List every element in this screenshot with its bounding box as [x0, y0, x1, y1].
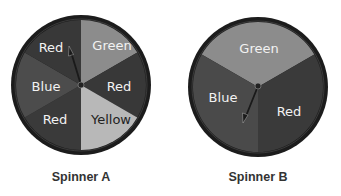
- sector-label: Blue: [32, 79, 61, 94]
- spinner-a: Green Red Yellow Red Blue Red: [11, 15, 151, 155]
- sector-label: Yellow: [90, 112, 131, 127]
- spinners-svg: Green Red Yellow Red Blue Red: [0, 0, 341, 196]
- sector-label: Red: [39, 40, 64, 55]
- sector-label: Red: [277, 104, 302, 119]
- spinner-b: Green Red Blue: [188, 17, 328, 157]
- sector-label: Red: [43, 112, 68, 127]
- spinner-a-caption: Spinner A: [21, 170, 141, 184]
- sector-label: Green: [92, 38, 131, 53]
- pivot-icon: [78, 82, 84, 88]
- spinner-b-caption: Spinner B: [198, 170, 318, 184]
- sector-label: Green: [239, 41, 278, 56]
- pivot-icon: [255, 83, 261, 89]
- sector-label: Blue: [209, 90, 238, 105]
- spinners-figure: Green Red Yellow Red Blue Red: [0, 0, 341, 196]
- sector-label: Red: [107, 79, 132, 94]
